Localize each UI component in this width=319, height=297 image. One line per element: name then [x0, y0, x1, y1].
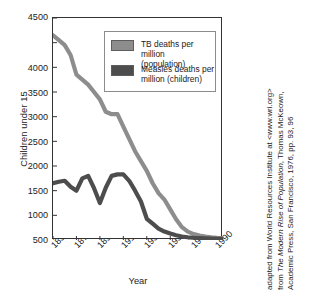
y-tick-label: 2500	[2, 138, 48, 147]
y-tick-label: 3500	[2, 89, 48, 98]
credit-line-2-suffix: , Thomas McKeown,	[276, 91, 285, 163]
legend-item-measles: Measles deaths per million (children)	[111, 64, 214, 84]
y-tick-label: 1500	[2, 187, 48, 196]
y-tick-label: 4500	[2, 13, 48, 22]
y-tick-label: 2000	[2, 162, 48, 171]
y-tick-label: 3000	[2, 113, 48, 122]
y-tick-label: 4000	[2, 64, 48, 73]
credit-line-2-title: The Modern Rise of Population	[276, 163, 285, 272]
credit-line-3: Academic Press, San Francisco, 1976, pp.…	[286, 117, 295, 290]
y-tick-label: 1000	[2, 211, 48, 220]
source-credit: adapted from World Resources Institute a…	[265, 16, 297, 290]
credit-line-1: adapted from World Resources Institute a…	[265, 88, 274, 290]
legend-label-measles: Measles deaths per million (children)	[141, 64, 214, 84]
legend-swatch-tb	[111, 40, 134, 51]
x-axis-label: Year	[52, 276, 224, 286]
chart-figure: Children under 15 500 1000 1500 2000 250…	[0, 0, 319, 297]
y-tick-label: 500	[2, 236, 48, 245]
series-line-measles	[53, 174, 222, 239]
chart-legend: TB deaths per million (population) Measl…	[104, 31, 216, 92]
credit-line-2-prefix: from	[276, 272, 285, 290]
legend-swatch-measles	[111, 65, 134, 76]
